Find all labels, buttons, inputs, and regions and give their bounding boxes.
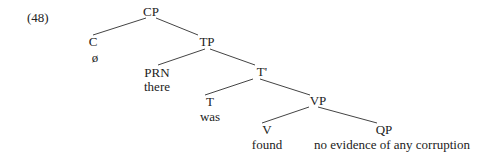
edge-tbar-t [205,79,253,95]
word-qp: no evidence of any corruption [314,138,470,152]
edge-vp-qp [318,107,377,123]
node-c: C [89,35,98,49]
node-t: T [206,95,214,109]
edge-tp-tbar [210,49,255,65]
syntax-tree: (48) CP C ø TP PRN there T' T was VP V f… [0,0,493,159]
edge-vp-v [262,107,309,123]
node-vp: VP [310,94,327,108]
edge-cp-tp [156,18,198,35]
word-t: was [200,110,220,124]
edge-tp-prn [158,49,205,65]
word-v: found [252,138,282,152]
edge-cp-c [93,18,146,35]
node-v: V [262,123,271,137]
word-c: ø [92,51,99,65]
tree-edges [0,0,493,159]
node-prn: PRN [144,66,169,80]
node-tbar: T' [257,65,267,79]
node-cp: CP [143,5,159,19]
edge-tbar-vp [260,79,310,95]
node-qp: QP [376,123,393,137]
node-tp: TP [199,35,214,49]
word-prn: there [144,80,170,94]
